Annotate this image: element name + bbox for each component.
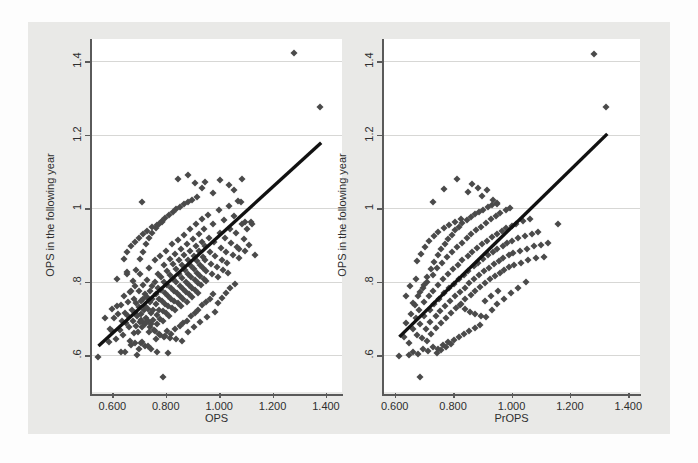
x-tick-label: 1.000 — [196, 400, 242, 412]
x-tick-mark — [273, 393, 275, 398]
scatter-point — [527, 216, 534, 223]
scatter-point — [426, 238, 433, 245]
scatter-point — [101, 315, 108, 322]
scatter-point — [109, 327, 116, 334]
y-tick-mark — [85, 208, 91, 210]
gridline — [91, 282, 342, 283]
y-tick-label: .8 — [363, 261, 375, 301]
scatter-point — [157, 252, 164, 259]
scatter-point — [425, 293, 432, 300]
scatter-point — [169, 241, 176, 248]
scatter-point — [133, 351, 140, 358]
x-tick-label: 0.800 — [430, 400, 476, 412]
scatter-point — [432, 313, 439, 320]
scatter-point — [210, 221, 217, 228]
scatter-point — [530, 243, 537, 250]
scatter-point — [523, 245, 530, 252]
scatter-point — [514, 284, 521, 291]
scatter-point — [119, 332, 126, 339]
scatter-point — [185, 329, 192, 336]
scatter-point — [146, 265, 153, 272]
scatter-point — [214, 274, 221, 281]
x-tick-mark — [570, 393, 572, 398]
scatter-point — [421, 313, 428, 320]
scatter-point — [171, 307, 178, 314]
scatter-point — [136, 255, 143, 262]
scatter-point — [235, 255, 242, 262]
scatter-point — [495, 288, 502, 295]
scatter-point — [479, 192, 486, 199]
scatter-point — [217, 177, 224, 184]
y-axis-line-left — [90, 39, 92, 395]
scatter-point — [516, 247, 523, 254]
scatter-point — [204, 211, 211, 218]
y-tick-mark — [85, 355, 91, 357]
gridline — [91, 355, 342, 356]
x-tick-label: 1.400 — [303, 400, 349, 412]
scatter-point — [210, 190, 217, 197]
scatter-point — [120, 255, 127, 262]
scatter-point — [192, 220, 199, 227]
y-tick-label: 1.4 — [71, 40, 83, 80]
scatter-point — [414, 351, 421, 358]
scatter-point — [212, 252, 219, 259]
scatter-point — [180, 231, 187, 238]
scatter-point — [239, 176, 246, 183]
scatter-point — [197, 319, 204, 326]
scatter-point — [525, 257, 532, 264]
scatter-point — [433, 324, 440, 331]
scatter-point — [422, 244, 429, 251]
scatter-point — [221, 234, 228, 241]
scatter-point — [426, 306, 433, 313]
scatter-point — [403, 293, 410, 300]
gridline — [91, 135, 342, 136]
scatter-point — [139, 248, 146, 255]
y-tick-label: .6 — [71, 334, 83, 374]
scatter-point — [232, 230, 239, 237]
scatter-point — [448, 249, 455, 256]
y-tick-label: 1.2 — [71, 114, 83, 154]
gridline — [383, 355, 640, 356]
scatter-point — [174, 175, 181, 182]
scatter-point — [175, 236, 182, 243]
scatter-point — [500, 296, 507, 303]
scatter-point — [231, 186, 238, 193]
x-tick-mark — [512, 393, 514, 398]
scatter-point — [545, 240, 552, 247]
y-tick-label: 1 — [71, 187, 83, 227]
y-tick-label: 1 — [363, 187, 375, 227]
y-tick-mark — [377, 355, 383, 357]
scatter-point — [201, 225, 208, 232]
scatter-point — [252, 252, 259, 259]
scatter-point — [225, 269, 232, 276]
scatter-point — [201, 243, 208, 250]
scatter-point — [189, 294, 196, 301]
x-tick-mark — [219, 393, 221, 398]
scatter-point — [139, 198, 146, 205]
scatter-point — [603, 103, 610, 110]
scatter-point — [220, 216, 227, 223]
x-tick-label: 1.200 — [250, 400, 296, 412]
scatter-point — [160, 317, 167, 324]
scatter-panel-ops: .6.811.21.4 0.6000.8001.0001.2001.400 OP… — [28, 22, 358, 434]
scatter-point — [400, 333, 407, 340]
scatter-point — [444, 271, 451, 278]
scatter-point — [427, 319, 434, 326]
y-tick-mark — [377, 135, 383, 137]
x-axis-title-left: OPS — [90, 412, 343, 424]
scatter-point — [95, 353, 102, 360]
x-tick-label: 1.200 — [547, 400, 593, 412]
y-tick-mark — [377, 282, 383, 284]
scatter-point — [165, 312, 172, 319]
scatter-point — [555, 221, 562, 228]
scatter-point — [224, 259, 231, 266]
scatter-point — [124, 249, 131, 256]
scatter-point — [240, 235, 247, 242]
x-axis-line-left — [90, 394, 343, 396]
y-axis-title-left: OPS in the following year — [44, 145, 56, 285]
scatter-point — [430, 287, 437, 294]
scatter-point — [417, 373, 424, 380]
scatter-panel-props: .6.811.21.4 0.6000.8001.0001.2001.400 OP… — [358, 22, 670, 434]
scatter-point — [316, 103, 323, 110]
scatter-point — [428, 330, 435, 337]
